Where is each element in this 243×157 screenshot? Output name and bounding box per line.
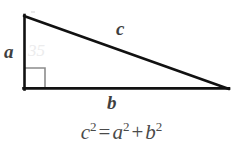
pythagorean-equation: c2=a2+b2 bbox=[0, 122, 243, 143]
equation-equals-sign: = bbox=[97, 120, 113, 144]
side-label-a: a bbox=[4, 42, 14, 61]
equation-lhs-exponent: 2 bbox=[90, 119, 97, 134]
equation-plus-sign: + bbox=[129, 120, 145, 144]
figure-canvas: 35 a c b c2=a2+b2 bbox=[0, 0, 243, 157]
image-speck-artifact bbox=[31, 11, 35, 13]
side-label-c: c bbox=[116, 19, 124, 38]
equation-term1-base: a bbox=[112, 120, 123, 144]
equation-term2-exponent: 2 bbox=[156, 119, 163, 134]
side-label-b: b bbox=[107, 93, 117, 112]
right-angle-marker-icon bbox=[24, 68, 45, 89]
faint-watermark-artifact: 35 bbox=[28, 41, 45, 61]
equation-term2-base: b bbox=[145, 120, 156, 144]
triangle-side-c bbox=[24, 16, 229, 89]
equation-lhs-base: c bbox=[81, 120, 90, 144]
